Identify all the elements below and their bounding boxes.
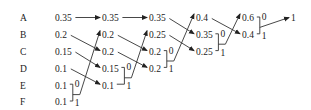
- bit-label-1: 1: [126, 81, 131, 91]
- symbol-label: A: [20, 13, 27, 23]
- symbol-label: C: [20, 47, 26, 57]
- carry-arrow: [212, 19, 240, 34]
- symbol-label: B: [20, 30, 26, 40]
- bit-label-1: 1: [262, 31, 267, 41]
- merge-bracket: [164, 51, 167, 68]
- probability-value: 0.25: [149, 30, 166, 40]
- probability-value: 0.2: [149, 47, 161, 57]
- carry-arrow: [118, 52, 147, 67]
- probability-value: 0.15: [55, 47, 72, 57]
- bit-label-0: 0: [220, 29, 225, 39]
- bit-label-0: 0: [169, 46, 174, 56]
- probability-value: 1: [291, 13, 296, 23]
- probability-value: 0.4: [196, 13, 208, 23]
- merge-bracket: [215, 34, 218, 51]
- bit-label-1: 1: [220, 48, 225, 58]
- bit-label-0: 0: [75, 79, 80, 89]
- symbol-label: E: [20, 81, 26, 91]
- probability-value: 0.2: [149, 64, 161, 74]
- bit-label-1: 1: [169, 64, 174, 74]
- merge-bracket: [257, 17, 260, 34]
- bit-label-0: 0: [126, 62, 131, 72]
- symbol-label: F: [20, 97, 25, 107]
- bit-label-1: 1: [75, 98, 80, 108]
- probability-value: 0.2: [55, 30, 67, 40]
- bit-label-0: 0: [262, 12, 267, 22]
- carry-arrow: [75, 52, 100, 67]
- probability-value: 0.1: [102, 81, 114, 91]
- probability-value: 0.35: [196, 30, 213, 40]
- probability-value: 0.25: [196, 47, 213, 57]
- probability-value: 0.1: [55, 81, 67, 91]
- merge-bracket: [70, 84, 73, 101]
- probability-value: 0.35: [102, 13, 119, 23]
- probability-value: 0.1: [55, 64, 67, 74]
- huffman-diagram: ABCDEF0.350.20.150.10.10.10.350.20.20.15…: [0, 0, 311, 110]
- probability-value: 0.2: [102, 47, 114, 57]
- probability-value: 0.35: [149, 13, 166, 23]
- probability-value: 0.35: [55, 13, 72, 23]
- carry-arrow: [71, 35, 100, 50]
- probability-value: 0.6: [242, 13, 254, 23]
- probability-value: 0.1: [55, 97, 67, 107]
- symbol-label: D: [20, 64, 27, 74]
- probability-value: 0.4: [242, 30, 254, 40]
- probability-value: 0.2: [102, 30, 114, 40]
- probability-value: 0.15: [102, 64, 119, 74]
- carry-arrow: [169, 19, 194, 34]
